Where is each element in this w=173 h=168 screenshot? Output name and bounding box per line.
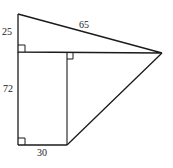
label-65: 65 — [79, 20, 89, 30]
label-25: 25 — [2, 27, 12, 37]
upper-triangle — [18, 14, 162, 53]
right-angle-marker-bottom-left — [18, 138, 25, 145]
right-angle-marker-inner — [67, 53, 73, 59]
label-30: 30 — [37, 148, 47, 158]
label-72: 72 — [3, 84, 13, 94]
lower-diagonal-line — [67, 53, 162, 145]
geometry-diagram: 25 65 72 30 — [0, 0, 173, 168]
right-angle-marker-top-left — [18, 45, 25, 52]
